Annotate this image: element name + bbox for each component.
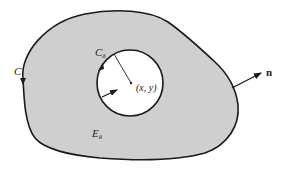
label-point-xy: (x, y) xyxy=(136,82,157,94)
outer-normal-arrow-n xyxy=(232,73,261,88)
label-c: C xyxy=(14,65,22,77)
diagram-canvas: C Cδ (x, y) Eδ n xyxy=(0,0,288,173)
label-n: n xyxy=(266,66,272,78)
center-point xyxy=(130,82,132,84)
